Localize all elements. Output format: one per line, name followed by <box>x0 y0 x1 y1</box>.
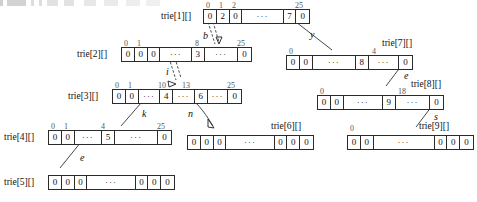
array-cell: 0 <box>158 131 171 144</box>
array-cell: 0 <box>348 136 361 149</box>
array-cell-ellipsis: ··· <box>208 90 229 103</box>
array-cell: 0 <box>361 136 374 149</box>
array-cell: 0 <box>399 56 412 69</box>
array-cell-ellipsis: ··· <box>160 48 192 61</box>
array-cell: 0 <box>331 96 344 109</box>
array-cell: 0 <box>318 96 331 109</box>
edge-label-b: b <box>203 30 208 41</box>
array-label-trie9: trie[9][] <box>419 121 449 132</box>
array-label-trie4: trie[4][] <box>4 132 34 143</box>
array-cell-ellipsis: ··· <box>396 96 430 109</box>
array-cell-ellipsis: ··· <box>139 90 161 103</box>
array-cell: 0 <box>148 176 161 189</box>
array-cell-ellipsis: ··· <box>173 90 195 103</box>
array-cell: 0 <box>201 136 214 149</box>
edge-line-i <box>168 58 181 87</box>
array-cell: 0 <box>161 176 174 189</box>
array-cell: 0 <box>188 136 201 149</box>
array-cell: 5 <box>102 131 115 144</box>
array-cell: 0 <box>49 131 62 144</box>
array-cell: 3 <box>192 48 205 61</box>
array-row-trie4: 0 0 ··· 5 ··· 0 <box>48 130 172 145</box>
array-label-trie7: trie[7][] <box>382 38 412 49</box>
array-cell: 4 <box>160 90 173 103</box>
array-cell: 0 <box>287 56 300 69</box>
edge-label-i: i <box>166 66 169 77</box>
array-row-trie8: 0 0 ··· 9 ··· 0 <box>317 95 444 110</box>
array-cell-ellipsis: ··· <box>369 56 400 69</box>
array-cell: 0 <box>230 10 243 23</box>
array-cell: 2 <box>217 10 230 23</box>
array-cell-ellipsis: ··· <box>87 176 135 189</box>
array-cell-ellipsis: ··· <box>226 136 274 149</box>
array-cell: 0 <box>435 136 448 149</box>
array-cell: 0 <box>75 176 88 189</box>
array-cell: 0 <box>430 96 443 109</box>
array-cell-ellipsis: ··· <box>374 136 435 149</box>
array-row-trie2: 0 0 0 ··· 3 ··· 0 <box>121 47 252 62</box>
edge-label-e1: e <box>80 152 84 163</box>
array-cell: 0 <box>238 48 251 61</box>
array-label-trie3: trie[3][] <box>68 91 98 102</box>
array-cell: 0 <box>113 90 126 103</box>
array-cell: 0 <box>62 131 75 144</box>
array-cell: 0 <box>300 56 313 69</box>
array-cell-ellipsis: ··· <box>344 96 383 109</box>
edge-label-k: k <box>142 108 146 119</box>
index-label-trie9-0: 0 <box>350 124 354 133</box>
array-label-trie5: trie[5][] <box>4 177 34 188</box>
array-row-trie1: 0 2 0 ··· 7 0 <box>203 9 310 24</box>
array-label-trie6: trie[6][] <box>271 121 301 132</box>
array-label-trie2: trie[2][] <box>77 49 107 60</box>
array-cell: 0 <box>214 136 227 149</box>
scan-artifact-strip <box>0 0 160 6</box>
array-cell: 6 <box>195 90 208 103</box>
edge-label-s: s <box>434 111 438 122</box>
array-cell-ellipsis: ··· <box>313 56 356 69</box>
array-cell: 0 <box>49 176 62 189</box>
array-cell: 0 <box>122 48 135 61</box>
array-cell-ellipsis: ··· <box>75 131 103 144</box>
array-cell-ellipsis: ··· <box>115 131 158 144</box>
array-cell: 8 <box>356 56 369 69</box>
edge-line-b <box>208 22 222 44</box>
edge-label-y: y <box>310 29 314 40</box>
array-row-trie7: 0 0 ··· 8 ··· 0 <box>286 55 413 70</box>
array-cell: 0 <box>287 136 300 149</box>
array-cell: 0 <box>204 10 217 23</box>
array-cell: 0 <box>296 10 309 23</box>
array-cell-ellipsis: ··· <box>242 10 283 23</box>
array-row-trie6: 0 0 0 ··· 0 0 0 <box>187 135 314 150</box>
array-cell-ellipsis: ··· <box>205 48 238 61</box>
array-cell: 0 <box>126 90 139 103</box>
array-row-trie5: 0 0 0 ··· 0 0 0 <box>48 175 175 190</box>
array-row-trie9: 0 0 ··· 0 0 0 <box>347 135 474 150</box>
array-cell: 0 <box>447 136 460 149</box>
array-cell: 9 <box>383 96 396 109</box>
edge-label-e2: e <box>404 70 408 81</box>
array-label-trie8: trie[8][] <box>411 79 441 90</box>
array-cell: 7 <box>284 10 297 23</box>
array-cell: 0 <box>135 48 148 61</box>
array-cell: 0 <box>300 136 313 149</box>
array-cell: 0 <box>275 136 288 149</box>
trie-diagram: trie[1][] 0 1 2 25 0 2 0 ··· 7 0 trie[2]… <box>0 0 477 202</box>
array-cell: 0 <box>62 176 75 189</box>
array-label-trie1: trie[1][] <box>161 11 191 22</box>
array-cell: 0 <box>460 136 473 149</box>
array-cell: 0 <box>228 90 241 103</box>
edge-label-n: n <box>188 108 193 119</box>
array-row-trie3: 0 0 ··· 4 ··· 6 ··· 0 <box>112 89 242 104</box>
array-cell: 0 <box>136 176 149 189</box>
array-cell: 0 <box>148 48 161 61</box>
